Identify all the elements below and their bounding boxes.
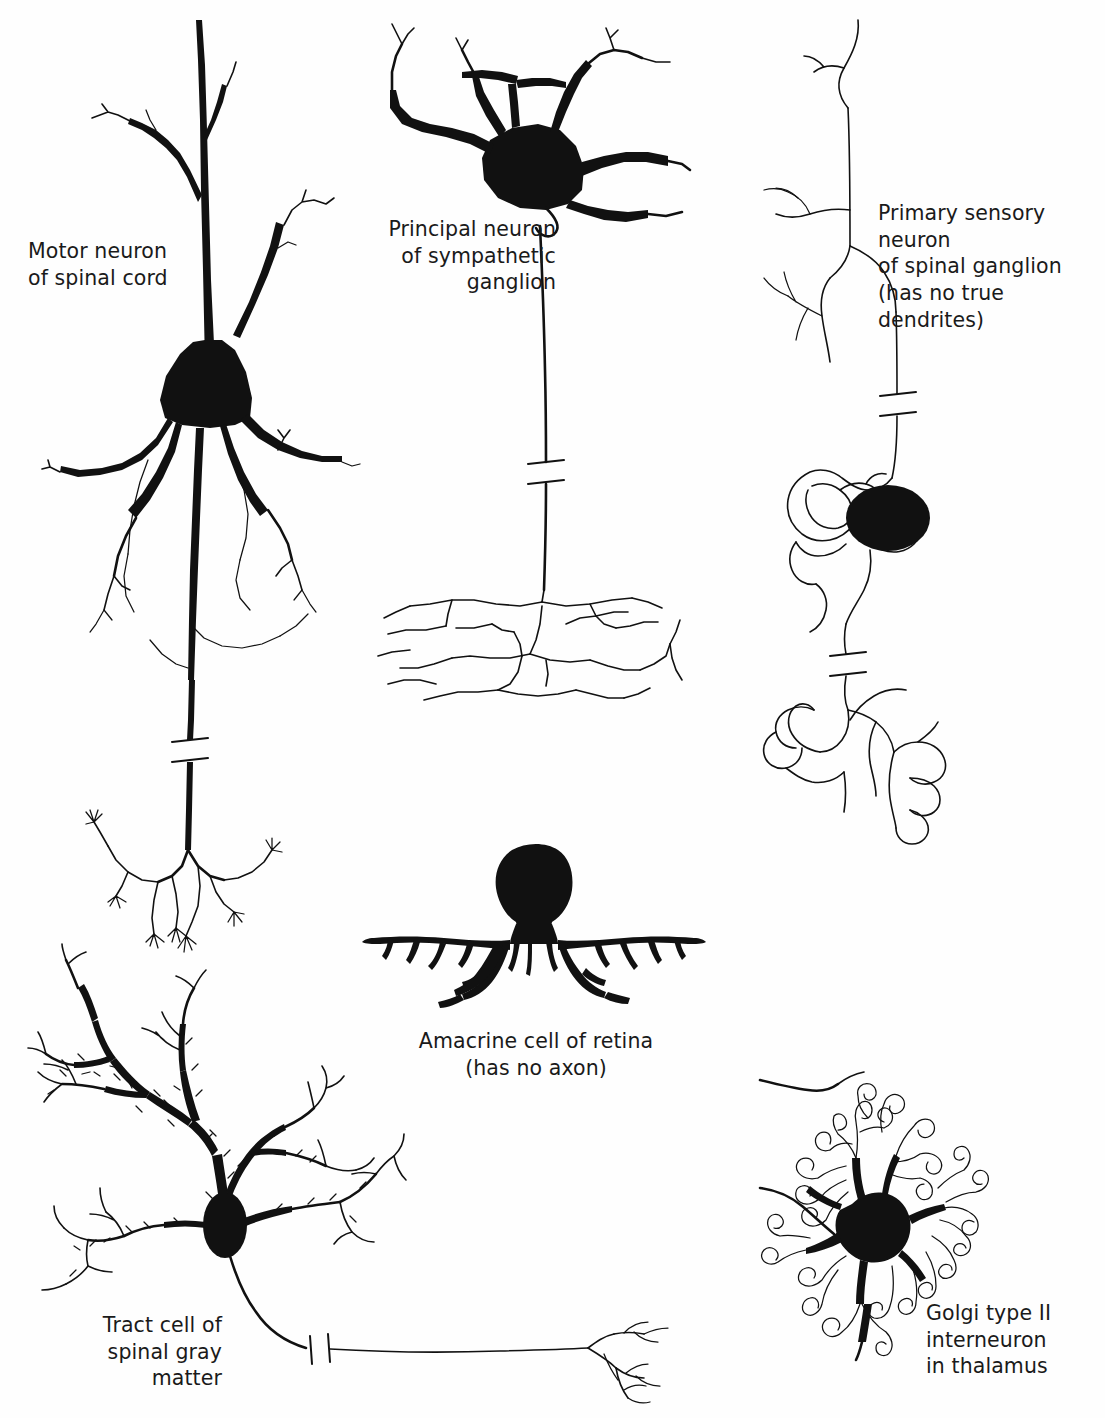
motor-neuron-drawing <box>42 20 360 952</box>
label-motor-neuron: Motor neuron of spinal cord <box>28 238 168 291</box>
figure-motor-neuron <box>30 20 360 900</box>
label-golgi-interneuron: Golgi type II interneuron in thalamus <box>926 1300 1051 1380</box>
neuron-types-plate: Motor neuron of spinal cord <box>0 0 1105 1418</box>
sympathetic-neuron-drawing <box>378 24 690 700</box>
figure-sensory-neuron <box>740 20 1000 850</box>
label-sensory-neuron: Primary sensory neuron of spinal ganglio… <box>878 200 1105 333</box>
label-tract-cell: Tract cell of spinal gray matter <box>92 1312 222 1392</box>
figure-sympathetic-neuron <box>370 20 690 750</box>
sensory-neuron-drawing <box>764 20 946 844</box>
label-sympathetic-neuron: Principal neuron of sympathetic ganglion <box>388 216 556 296</box>
